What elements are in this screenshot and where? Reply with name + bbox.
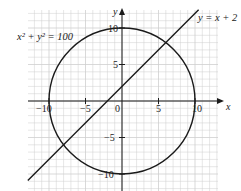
y-tick-label: −5 <box>104 132 115 143</box>
y-axis-label: y <box>112 6 118 17</box>
x-tick-label: −5 <box>80 103 91 114</box>
x-tick-label: 5 <box>156 103 161 114</box>
line-equation-label: y = x + 2 <box>197 12 238 23</box>
y-tick-label: 10 <box>108 23 118 34</box>
x-tick-label: −10 <box>36 103 52 114</box>
y-axis-arrow-icon <box>119 8 125 15</box>
chart: x² + y² = 100 y = x + 2 x y 0 −10 −5 5 1… <box>0 0 241 191</box>
x-axis-label: x <box>225 101 231 112</box>
circle-equation-label: x² + y² = 100 <box>16 31 74 42</box>
y-tick-label: 5 <box>113 59 118 70</box>
origin-label: 0 <box>115 103 120 114</box>
x-tick-label: 10 <box>192 103 202 114</box>
x-axis-arrow-icon <box>217 98 224 104</box>
y-tick-label: −10 <box>98 169 114 180</box>
